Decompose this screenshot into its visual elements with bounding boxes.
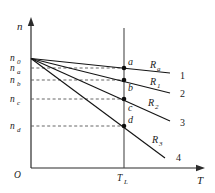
data-point-a [122,66,127,71]
data-point-c [122,97,127,102]
curve-label-r3-base: R [151,134,158,145]
y-tick-label-nd: n d [10,121,21,134]
x-axis [31,165,205,171]
y-tick-sub-nd: d [17,126,21,134]
line-number-4: 4 [176,152,181,163]
y-tick-base-nc: n [10,94,15,104]
data-point-d [122,124,127,129]
x-tick-base: T [117,173,123,183]
carrier-concentration-temperature-figure: n T O T L n 0 n a n b n c n d a b c d R … [0,0,215,193]
curve-label-r1-sub: 1 [157,82,161,90]
y-tick-label-nc: n c [10,94,21,107]
x-axis-arrow [196,165,205,171]
point-label-a: a [128,56,133,67]
y-tick-base-na: n [10,63,15,73]
data-point-b [122,78,127,83]
y-tick-sub-n0: 0 [17,58,21,66]
y-tick-sub-nc: c [17,99,21,107]
y-tick-base-nb: n [10,75,15,85]
y-axis [28,17,34,168]
line-number-1: 1 [180,70,185,81]
origin-label: O [14,170,21,180]
y-tick-base-nd: n [10,121,15,131]
curve-label-r3: R 3 [151,134,163,148]
line-number-2: 2 [180,88,185,99]
y-axis-arrow [28,17,34,26]
curve-line-4 [31,59,165,159]
curve-label-r2: R 2 [147,97,159,111]
curve-label-r3-sub: 3 [158,140,163,148]
x-axis-label: T [197,174,204,186]
curve-label-r2-base: R [147,97,154,108]
x-tick-sub: L [123,178,128,186]
y-tick-sub-na: a [17,68,21,76]
curve-label-r1-base: R [149,76,156,87]
x-tick-label-tl: T L [117,173,128,186]
point-label-b: b [128,82,133,93]
curve-label-ra-sub: a [157,65,161,73]
point-label-c: c [128,102,133,113]
y-axis-label: n [17,20,23,32]
line-number-3: 3 [180,117,185,128]
y-tick-label-nb: n b [10,75,21,88]
curve-label-ra-base: R [149,59,156,70]
y-tick-base-n0: n [10,53,15,63]
curve-label-r2-sub: 2 [155,103,159,111]
point-label-d: d [128,114,134,125]
y-tick-sub-nb: b [17,80,21,88]
